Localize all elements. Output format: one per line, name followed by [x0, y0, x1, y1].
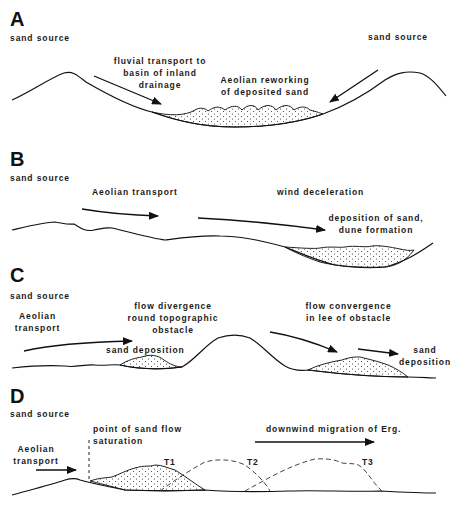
panel-a-fluvial-arrow-right [330, 70, 378, 102]
panel-c-sand-deposition-right-line-2: deposition [396, 356, 454, 368]
panel-a-letter: A [10, 8, 24, 31]
panel-a-sand-deposit [152, 106, 323, 128]
panel-d-sand-source: sand source [10, 408, 70, 420]
panel-d-saturation-line-1: point of sand flow [93, 423, 182, 435]
panel-a-fluvial-line-1: fluvial transport to [105, 55, 215, 67]
panel-c-aeolian-line-1: Aeolian [10, 310, 65, 322]
panel-d-migration-label: downwind migration of Erg. [266, 423, 401, 435]
panel-d-aeolian-line-1: Aeolian [10, 443, 62, 455]
panel-c-convergence-label: flow convergence in lee of obstacle [296, 300, 401, 324]
panel-b-deposition-line-2: dune formation [320, 224, 432, 236]
panel-c-sand-deposition-right-line-1: sand [396, 344, 454, 356]
panel-c-letter: C [10, 264, 24, 287]
panel-c-wind-arrow-3 [358, 349, 398, 354]
panel-c-divergence-label: flow divergence round topographic obstac… [118, 300, 228, 336]
panel-d-t3-label: T3 [362, 456, 374, 468]
panel-b-wind-arrow-1 [82, 209, 158, 216]
panel-a-aeolian-line-1: Aeolian reworking [210, 74, 320, 86]
panel-a-fluvial-line-2: basin of inland [105, 67, 215, 79]
panel-d-saturation-line-2: saturation [93, 435, 182, 447]
panel-d-t1-label: T1 [164, 456, 176, 468]
panel-a-aeolian-line-2: of deposited sand [210, 86, 320, 98]
panel-c-divergence-line-1: flow divergence [118, 300, 228, 312]
panel-a-fluvial-label: fluvial transport to basin of inland dra… [105, 55, 215, 91]
panel-d-letter: D [10, 385, 24, 408]
panel-b-deposition-line-1: deposition of sand, [320, 212, 432, 224]
panel-c-wind-arrow-2 [270, 332, 337, 352]
panel-d-aeolian-label: Aeolian transport [10, 443, 62, 467]
panel-b-wind-deceleration: wind deceleration [277, 186, 364, 198]
panel-b-aeolian-transport: Aeolian transport [92, 186, 178, 198]
panel-b-sand-source: sand source [10, 172, 70, 184]
panel-c-aeolian-line-2: transport [10, 322, 65, 334]
panel-d-aeolian-line-2: transport [10, 455, 62, 467]
panel-c-convergence-line-2: in lee of obstacle [296, 312, 401, 324]
panel-c-sand-source: sand source [10, 290, 70, 302]
panel-a-fluvial-line-3: drainage [105, 79, 215, 91]
panel-a-sand-source-right: sand source [368, 31, 428, 43]
panel-a-sand-source-left: sand source [10, 32, 70, 44]
panel-d-saturation-label: point of sand flow saturation [93, 423, 182, 447]
panel-a-aeolian-label: Aeolian reworking of deposited sand [210, 74, 320, 98]
panel-c-sand-deposition-right: sand deposition [396, 344, 454, 368]
panel-c-aeolian-label: Aeolian transport [10, 310, 65, 334]
panel-c-drawing [12, 332, 436, 378]
panel-c-sand-deposit-right [308, 357, 408, 377]
panel-b-wind-arrow-2 [198, 218, 325, 230]
panel-b-deposition-label: deposition of sand, dune formation [320, 212, 432, 236]
panel-c-sand-deposition-left: sand deposition [106, 344, 185, 356]
panel-c-convergence-line-1: flow convergence [296, 300, 401, 312]
panel-c-divergence-line-2: round topographic [118, 312, 228, 324]
panel-d-ground [12, 479, 436, 496]
panel-b-letter: B [10, 148, 24, 171]
panel-d-t2-label: T2 [247, 456, 259, 468]
panel-c-divergence-line-3: obstacle [118, 324, 228, 336]
